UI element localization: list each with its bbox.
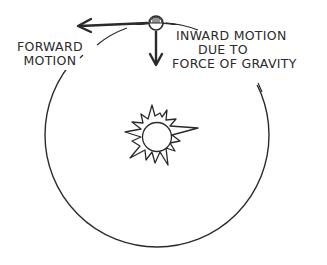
inward-motion-line-2: DUE TO xyxy=(172,43,297,57)
sun-icon xyxy=(125,105,198,165)
inward-motion-line-3: FORCE OF GRAVITY xyxy=(172,57,297,71)
inward-gravity-arrow xyxy=(150,31,162,65)
forward-motion-label: FORWARD MOTION xyxy=(17,40,83,68)
forward-motion-line-1: FORWARD xyxy=(17,40,83,54)
forward-motion-line-2: MOTION xyxy=(17,54,83,68)
inward-motion-line-1: INWARD MOTION xyxy=(172,29,297,43)
planet-icon xyxy=(149,16,163,30)
inward-motion-label: INWARD MOTION DUE TO FORCE OF GRAVITY xyxy=(172,29,297,71)
